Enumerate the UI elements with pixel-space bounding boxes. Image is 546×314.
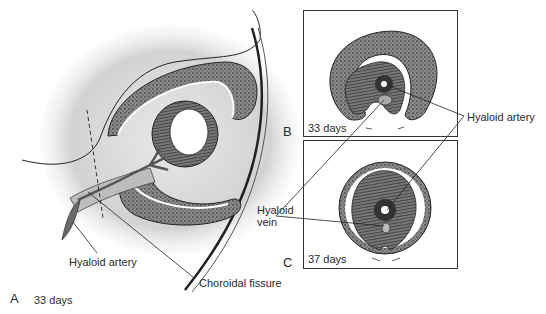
label-hyaloid-vein-line1: Hyaloid [257,204,294,216]
panel-c-frame [303,140,458,269]
panel-c-letter: C [283,256,292,270]
label-hyaloid-artery-right: Hyaloid artery [467,111,535,123]
panel-c-age: 37 days [308,253,347,265]
panel-b-frame [303,10,458,137]
panel-b-age: 33 days [308,122,347,134]
label-hyaloid-artery-left: Hyaloid artery [69,256,137,268]
panel-a-letter: A [10,292,19,306]
panel-b-letter: B [283,125,292,139]
panel-a-illustration [22,10,300,292]
label-choroidal-fissure: Choroidal fissure [199,277,282,289]
panel-a-age: 33 days [34,294,73,306]
label-hyaloid-vein-line2: vein [257,216,277,228]
